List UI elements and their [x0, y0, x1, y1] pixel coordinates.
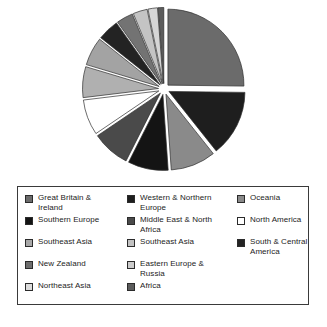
legend-item[interactable]: Southern Europe: [25, 215, 127, 237]
legend-column-2: Western & Northern Europe Middle East & …: [127, 193, 237, 303]
legend-item-label: Middle East & North Africa: [140, 215, 212, 234]
legend-swatch-icon: [237, 217, 245, 225]
legend-column-1: Great Britain & Ireland Southern Europe …: [25, 193, 127, 303]
legend-item[interactable]: Southeast Asia: [25, 237, 127, 259]
legend-item[interactable]: South & Central America: [237, 237, 317, 259]
legend-item[interactable]: Southeast Asia: [127, 237, 237, 259]
legend-swatch-icon: [127, 239, 135, 247]
legend-column-3: Oceania North America South & Central Am…: [237, 193, 317, 303]
chart-legend: Great Britain & Ireland Southern Europe …: [17, 186, 309, 305]
legend-swatch-icon: [127, 217, 135, 225]
legend-item-label: Southern Europe: [38, 215, 99, 225]
legend-swatch-icon: [25, 217, 33, 225]
legend-swatch-icon: [237, 239, 245, 247]
legend-item[interactable]: Africa: [127, 281, 237, 303]
legend-swatch-icon: [237, 195, 245, 203]
legend-item-label: Africa: [140, 281, 161, 291]
pie-slice[interactable]: [168, 9, 244, 86]
legend-swatch-icon: [25, 239, 33, 247]
legend-item-label: Great Britain & Ireland: [38, 193, 91, 212]
legend-item[interactable]: Great Britain & Ireland: [25, 193, 127, 215]
legend-swatch-icon: [25, 283, 33, 291]
legend-swatch-icon: [127, 283, 135, 291]
legend-item[interactable]: North America: [237, 215, 317, 237]
legend-item[interactable]: Northeast Asia: [25, 281, 127, 303]
legend-item-label: New Zealand: [38, 259, 86, 269]
legend-item-label: Oceania: [250, 193, 280, 203]
figure-caption: [8, 316, 323, 326]
legend-item[interactable]: Eastern Europe & Russia: [127, 259, 237, 281]
legend-item[interactable]: Oceania: [237, 193, 317, 215]
legend-item-label: Eastern Europe & Russia: [140, 259, 204, 278]
legend-item-label: North America: [250, 215, 301, 225]
pie-chart: [0, 0, 327, 178]
legend-grid: Great Britain & Ireland Southern Europe …: [18, 193, 308, 303]
legend-swatch-icon: [127, 195, 135, 203]
pie-chart-area: [0, 0, 327, 178]
legend-swatch-icon: [127, 261, 135, 269]
legend-item-label: Western & Northern Europe: [140, 193, 211, 212]
legend-item-label: Southeast Asia: [38, 237, 92, 247]
legend-item-label: South & Central America: [250, 237, 307, 256]
legend-swatch-icon: [25, 261, 33, 269]
legend-swatch-icon: [25, 195, 33, 203]
legend-item-label: Southeast Asia: [140, 237, 194, 247]
legend-item[interactable]: New Zealand: [25, 259, 127, 281]
legend-item[interactable]: Middle East & North Africa: [127, 215, 237, 237]
legend-item[interactable]: Western & Northern Europe: [127, 193, 237, 215]
legend-item-label: Northeast Asia: [38, 281, 91, 291]
